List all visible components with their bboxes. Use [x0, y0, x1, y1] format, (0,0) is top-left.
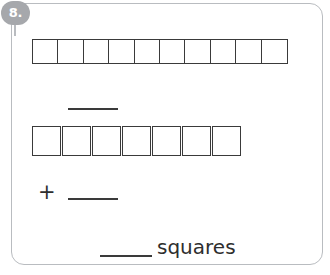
top-square-row	[32, 39, 288, 64]
square-cell[interactable]	[108, 39, 135, 64]
total-answer-blank[interactable]	[100, 255, 152, 257]
first-addend-blank[interactable]	[68, 108, 118, 110]
square-cell[interactable]	[182, 126, 211, 156]
square-cell[interactable]	[152, 126, 181, 156]
square-cell[interactable]	[159, 39, 186, 64]
square-cell[interactable]	[261, 39, 288, 64]
square-cell[interactable]	[235, 39, 262, 64]
square-cell[interactable]	[83, 39, 110, 64]
square-cell[interactable]	[134, 39, 161, 64]
square-cell[interactable]	[57, 39, 84, 64]
problem-number-badge: 8.	[1, 1, 30, 25]
square-cell[interactable]	[32, 126, 61, 156]
square-cell[interactable]	[184, 39, 211, 64]
worksheet-problem: 8. +	[0, 0, 330, 275]
unit-label: squares	[157, 235, 236, 259]
square-cell[interactable]	[212, 126, 241, 156]
square-cell[interactable]	[92, 126, 121, 156]
second-addend-blank[interactable]	[68, 198, 118, 200]
square-cell[interactable]	[32, 39, 59, 64]
square-cell[interactable]	[210, 39, 237, 64]
plus-operator: +	[38, 182, 56, 203]
square-cell[interactable]	[122, 126, 151, 156]
square-cell[interactable]	[62, 126, 91, 156]
bottom-square-row	[32, 126, 241, 156]
problem-content: + squares	[0, 0, 330, 275]
